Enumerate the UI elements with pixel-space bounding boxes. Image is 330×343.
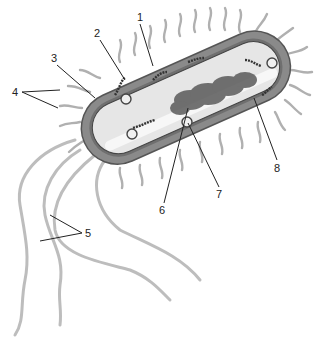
bacterium-diagram: 1 2 3 4 5 6 7 8 [0,0,330,343]
label-7: 7 [216,189,222,200]
label-4: 4 [12,87,18,98]
label-1: 1 [137,12,143,23]
bacterium-illustration [0,0,330,343]
label-5: 5 [85,228,91,239]
label-3: 3 [51,53,57,64]
label-2: 2 [94,28,100,39]
label-8: 8 [274,163,280,174]
label-6: 6 [159,205,165,216]
